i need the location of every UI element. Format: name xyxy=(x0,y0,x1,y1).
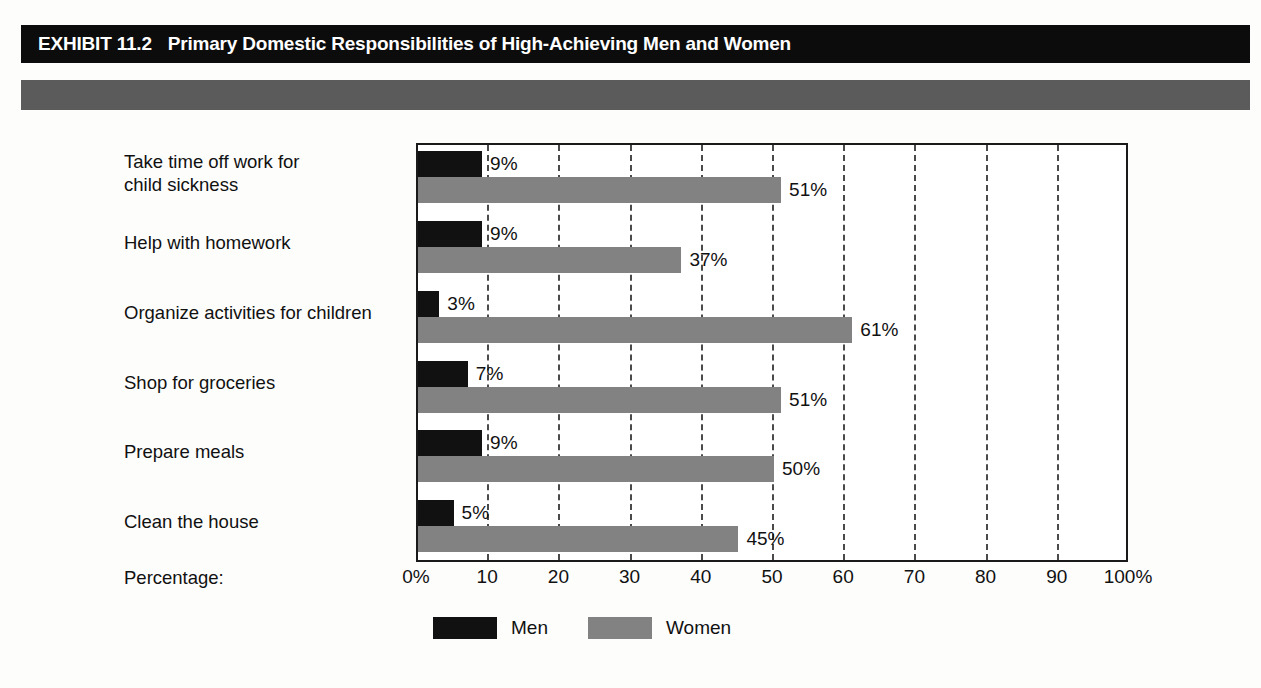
x-tick-50: 50 xyxy=(761,566,782,588)
legend-item: Women xyxy=(588,617,731,639)
bar-value-men: 9% xyxy=(490,221,517,247)
exhibit-subheader-bar xyxy=(21,80,1250,110)
category-label-line: Organize activities for children xyxy=(124,301,414,324)
bar-value-men: 3% xyxy=(447,291,474,317)
x-tick-60: 60 xyxy=(833,566,854,588)
legend-label: Men xyxy=(511,617,548,639)
bar-rows: Take time off work forchild sickness9%51… xyxy=(0,120,1261,688)
bar-men xyxy=(418,430,482,456)
legend-swatch-women xyxy=(588,617,652,639)
bar-value-men: 5% xyxy=(462,500,489,526)
bar-value-men: 7% xyxy=(476,361,503,387)
bar-group: Take time off work forchild sickness9%51… xyxy=(0,143,1261,213)
legend-swatch-men xyxy=(433,617,497,639)
chart-area: Take time off work forchild sickness9%51… xyxy=(0,120,1261,688)
exhibit-title-bar: EXHIBIT 11.2 Primary Domestic Responsibi… xyxy=(21,25,1250,63)
x-tick-10: 10 xyxy=(477,566,498,588)
category-label: Take time off work forchild sickness xyxy=(124,150,414,196)
x-tick-20: 20 xyxy=(548,566,569,588)
category-label-line: child sickness xyxy=(124,173,414,196)
category-label-line: Shop for groceries xyxy=(124,371,414,394)
bar-value-women: 51% xyxy=(789,387,827,413)
category-label: Organize activities for children xyxy=(124,301,414,324)
x-tick-80: 80 xyxy=(975,566,996,588)
bar-group: Organize activities for children3%61% xyxy=(0,283,1261,353)
exhibit-number: EXHIBIT 11.2 xyxy=(38,33,152,55)
x-axis-tick-labels: 0%102030405060708090100% xyxy=(0,566,1261,596)
bar-men xyxy=(418,361,468,387)
chart-legend: MenWomen xyxy=(433,615,771,641)
bar-value-women: 51% xyxy=(789,177,827,203)
bar-value-men: 9% xyxy=(490,430,517,456)
bar-value-women: 45% xyxy=(746,526,784,552)
bar-men xyxy=(418,221,482,247)
bar-group: Shop for groceries7%51% xyxy=(0,353,1261,423)
page-title: Primary Domestic Responsibilities of Hig… xyxy=(168,33,791,55)
bar-value-women: 37% xyxy=(689,247,727,273)
bar-men xyxy=(418,500,454,526)
bar-women xyxy=(418,247,681,273)
x-tick-0: 0% xyxy=(402,566,429,588)
x-tick-70: 70 xyxy=(904,566,925,588)
x-tick-30: 30 xyxy=(619,566,640,588)
bar-men xyxy=(418,291,439,317)
bar-women xyxy=(418,387,781,413)
bar-value-women: 50% xyxy=(782,456,820,482)
category-label: Prepare meals xyxy=(124,440,414,463)
bar-women xyxy=(418,456,774,482)
exhibit-figure: EXHIBIT 11.2 Primary Domestic Responsibi… xyxy=(0,0,1261,688)
x-tick-90: 90 xyxy=(1046,566,1067,588)
bar-group: Clean the house5%45% xyxy=(0,492,1261,562)
category-label-line: Help with homework xyxy=(124,231,414,254)
category-label-line: Prepare meals xyxy=(124,440,414,463)
category-label: Help with homework xyxy=(124,231,414,254)
x-tick-100: 100% xyxy=(1104,566,1153,588)
category-label: Shop for groceries xyxy=(124,371,414,394)
x-tick-40: 40 xyxy=(690,566,711,588)
bar-value-women: 61% xyxy=(860,317,898,343)
bar-women xyxy=(418,526,738,552)
bar-women xyxy=(418,177,781,203)
bar-group: Prepare meals9%50% xyxy=(0,422,1261,492)
category-label-line: Clean the house xyxy=(124,510,414,533)
legend-label: Women xyxy=(666,617,731,639)
category-label: Clean the house xyxy=(124,510,414,533)
bar-women xyxy=(418,317,852,343)
category-label-line: Take time off work for xyxy=(124,150,414,173)
bar-value-men: 9% xyxy=(490,151,517,177)
legend-item: Men xyxy=(433,617,548,639)
bar-group: Help with homework9%37% xyxy=(0,213,1261,283)
bar-men xyxy=(418,151,482,177)
